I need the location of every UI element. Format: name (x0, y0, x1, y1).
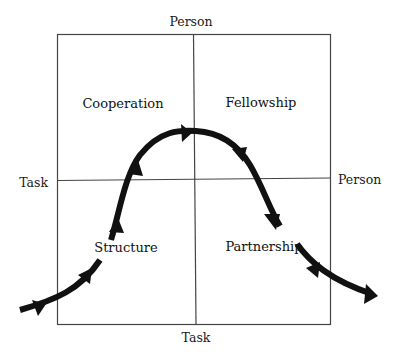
arrowhead-end-icon (364, 284, 378, 304)
axis-label-top: Person (169, 14, 212, 29)
horizontal-divider (57, 178, 331, 181)
axis-label-right: Person (338, 172, 381, 187)
flow-curve (20, 124, 378, 316)
quadrant-label-cooperation: Cooperation (82, 96, 164, 111)
axis-label-left: Task (19, 175, 48, 190)
quadrant-label-fellowship: Fellowship (226, 95, 297, 110)
quadrant-diagram: Person Task Task Person Cooperation Fell… (0, 0, 399, 359)
arrowhead-icon (264, 214, 280, 230)
axis-label-bottom: Task (182, 330, 211, 345)
quadrant-label-partnership: Partnership (225, 239, 302, 254)
arrowhead-icon (181, 124, 192, 142)
quadrant-label-structure: Structure (94, 240, 158, 255)
